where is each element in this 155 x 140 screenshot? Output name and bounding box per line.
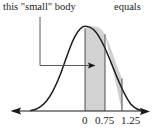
shaded-region-0-to-075 [85,26,105,111]
annotation-small-body-label: this "small" body [3,2,76,13]
x-tick-label-075: 0.75 [95,115,114,126]
axis-left-arrowhead [11,107,22,114]
annotation-leader-line [40,17,90,66]
annotation-equals-label: equals [114,2,141,13]
normal-curve-figure: this "small" body equals 0 0.75 1.25 [0,0,155,140]
x-tick-label-125: 1.25 [121,115,140,126]
x-tick-label-0: 0 [82,115,88,126]
shaded-region-075-to-125 [105,35,122,111]
axis-right-arrowhead [140,108,150,115]
